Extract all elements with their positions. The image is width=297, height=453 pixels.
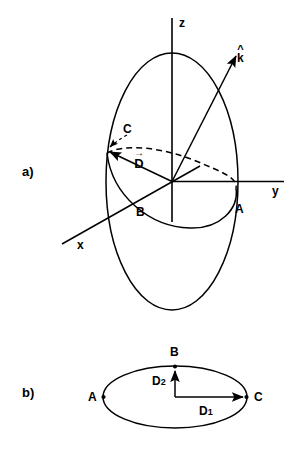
figure-canvas bbox=[0, 0, 297, 453]
point-b-marker bbox=[173, 364, 177, 368]
point-c-leader bbox=[110, 135, 127, 147]
d1-label-group: D1 bbox=[199, 402, 213, 418]
point-c-marker bbox=[244, 395, 248, 399]
panel-b-point-b-label: B bbox=[170, 345, 179, 359]
panel-b-point-a-label: A bbox=[88, 390, 97, 404]
d1-label: D bbox=[199, 404, 208, 418]
x-axis-label: x bbox=[77, 238, 84, 252]
point-a-marker bbox=[101, 395, 105, 399]
k-vector-label-group: ^ k bbox=[237, 44, 244, 64]
d2-subscript: 2 bbox=[161, 377, 166, 387]
panel-b-graphics bbox=[101, 364, 248, 428]
panel-b-label: b) bbox=[22, 385, 34, 400]
panel-b-point-c-label: C bbox=[254, 390, 263, 404]
d2-label: D bbox=[152, 374, 161, 388]
panel-a-label: a) bbox=[22, 164, 34, 179]
z-axis-label: z bbox=[179, 16, 185, 30]
d1-subscript: 1 bbox=[208, 407, 213, 417]
k-vector-label: k bbox=[237, 52, 244, 64]
panel-a-point-c-label: C bbox=[123, 122, 132, 136]
d2-label-group: D2 bbox=[152, 372, 166, 388]
scientific-figure: a) z y x ^ k → D C B A b) A B C D1 D2 bbox=[0, 0, 297, 453]
panel-a-point-b-label: B bbox=[136, 205, 145, 219]
dipole-vector-label: D bbox=[134, 157, 144, 170]
panel-a-point-a-label: A bbox=[235, 202, 244, 216]
k-vector-line[interactable] bbox=[172, 56, 236, 182]
panel-a-graphics bbox=[62, 18, 284, 310]
x-axis-line bbox=[62, 166, 200, 244]
dipole-vector-label-group: → D bbox=[134, 148, 144, 170]
y-axis-label: y bbox=[272, 184, 279, 198]
